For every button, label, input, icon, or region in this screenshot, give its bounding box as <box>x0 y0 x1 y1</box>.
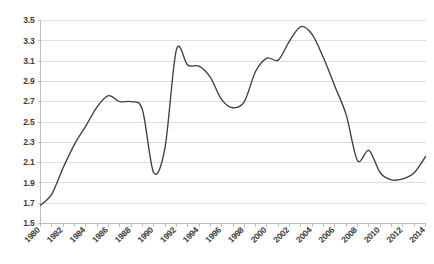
x-axis-tick-label: 1994 <box>181 225 201 245</box>
x-axis-tick-label: 2006 <box>316 225 336 245</box>
x-axis-tick-label: 1990 <box>135 225 155 245</box>
y-axis-tick-label: 1.7 <box>23 198 35 208</box>
y-axis-tick-label: 2.1 <box>23 157 35 167</box>
x-axis-tick-label: 2000 <box>249 225 269 245</box>
x-axis-tick-label: 1988 <box>113 225 133 245</box>
line-chart: 3.53.33.12.92.72.52.32.11.91.71.5 198019… <box>0 0 434 264</box>
x-axis <box>41 224 426 227</box>
x-axis-tick-label: 1982 <box>45 225 65 245</box>
x-axis-tick-label: 2010 <box>362 225 382 245</box>
y-axis-tick-label: 2.5 <box>23 117 35 127</box>
x-axis-tick-label: 1996 <box>203 225 223 245</box>
x-axis-tick-labels: 1980198219841986198819901992199419961998… <box>22 225 427 245</box>
x-axis-tick-label: 1998 <box>226 225 246 245</box>
x-axis-tick-label: 1984 <box>67 225 87 245</box>
y-axis-tick-label: 2.7 <box>23 96 35 106</box>
y-axis-tick-label: 3.5 <box>23 15 35 25</box>
x-axis-tick-label: 1992 <box>158 225 178 245</box>
gridlines <box>41 21 426 224</box>
x-axis-tick-label: 2008 <box>339 225 359 245</box>
y-axis-tick-label: 2.3 <box>23 137 35 147</box>
y-axis-tick-label: 1.9 <box>23 178 35 188</box>
x-axis-tick-label: 2012 <box>384 225 404 245</box>
data-series <box>41 26 426 205</box>
y-axis-tick-labels: 3.53.33.12.92.72.52.32.11.91.71.5 <box>23 15 35 228</box>
series-line-1 <box>41 26 426 205</box>
y-axis-tick-label: 3.1 <box>23 56 35 66</box>
y-axis-tick-label: 2.9 <box>23 76 35 86</box>
y-axis <box>38 21 41 224</box>
x-axis-tick-label: 2014 <box>407 225 427 245</box>
x-axis-tick-label: 1986 <box>90 225 110 245</box>
x-axis-tick-label: 2004 <box>294 225 314 245</box>
x-axis-tick-label: 2002 <box>271 225 291 245</box>
chart-canvas: 3.53.33.12.92.72.52.32.11.91.71.5 198019… <box>0 0 434 264</box>
y-axis-tick-label: 3.3 <box>23 36 35 46</box>
